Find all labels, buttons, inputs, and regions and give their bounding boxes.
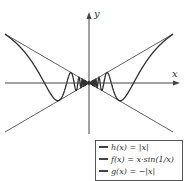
chart: x y h(x) = |x| f(x) = x·sin(1/x) g(x) = … [0,0,186,181]
legend-swatch-icon [99,146,108,148]
x-axis-arrow-icon [173,81,180,86]
legend-item-h: h(x) = |x| [96,141,182,153]
legend-swatch-icon [99,170,108,172]
y-axis-arrow-icon [87,12,92,19]
y-axis-label: y [94,8,100,19]
legend-item-g: g(x) = −|x| [96,165,182,177]
legend-item-f: f(x) = x·sin(1/x) [96,153,182,165]
x-axis-label: x [172,68,178,79]
y-axis [87,12,92,134]
legend-swatch-icon [99,158,108,160]
legend: h(x) = |x| f(x) = x·sin(1/x) g(x) = −|x| [95,140,183,181]
